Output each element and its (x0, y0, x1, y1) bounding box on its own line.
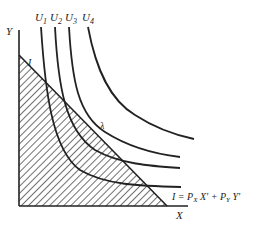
curve-label-u3: U3 (65, 11, 77, 26)
curve-label-u4: U4 (82, 11, 94, 26)
indifference-curve-diagram: Y X U1 U2 U3 U4 I λ I = PX X' + PY Y' (0, 0, 261, 226)
budget-equation: I = PX X' + PY Y' (171, 191, 241, 204)
curve-label-u1: U1 (35, 11, 47, 26)
curve-label-u2: U2 (50, 11, 62, 26)
y-axis-label: Y (6, 25, 14, 37)
x-axis-label: X (175, 209, 184, 221)
budget-intercept-label: I (27, 57, 32, 68)
point-lambda-label: λ (99, 120, 105, 131)
curve-labels: U1 U2 U3 U4 (35, 11, 94, 26)
